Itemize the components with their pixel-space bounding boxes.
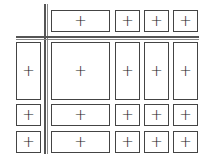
grid-cell-r3-c4[interactable]: + <box>173 131 198 153</box>
vertical-header-rule-2 <box>47 4 48 154</box>
plus-icon: + <box>121 108 134 123</box>
plus-icon: + <box>150 64 163 79</box>
grid-cell-r2-c1[interactable]: + <box>51 104 110 126</box>
grid-cell-r0-c3[interactable]: + <box>144 10 169 32</box>
grid-cell-r1-c2[interactable]: + <box>115 42 140 100</box>
grid-cell-r1-c3[interactable]: + <box>144 42 169 100</box>
grid-cell-r2-c4[interactable]: + <box>173 104 198 126</box>
grid-cell-r3-c3[interactable]: + <box>144 131 169 153</box>
grid-cell-r0-c1[interactable]: + <box>51 10 110 32</box>
plus-icon: + <box>22 64 35 79</box>
plus-icon: + <box>121 135 134 150</box>
grid-cell-r1-c1[interactable]: + <box>51 42 110 100</box>
vertical-header-rule <box>44 4 46 154</box>
grid-cell-r0-c4[interactable]: + <box>173 10 198 32</box>
plus-icon: + <box>179 64 192 79</box>
plus-icon: + <box>22 108 35 123</box>
plus-icon: + <box>121 64 134 79</box>
plus-icon: + <box>121 14 134 29</box>
plus-icon: + <box>150 14 163 29</box>
horizontal-header-rule <box>16 36 199 38</box>
plus-icon: + <box>74 135 87 150</box>
grid-cell-r1-c0[interactable]: + <box>16 42 41 100</box>
grid-cell-r3-c1[interactable]: + <box>51 131 110 153</box>
horizontal-header-rule-2 <box>16 39 199 40</box>
plus-icon: + <box>150 135 163 150</box>
grid-cell-r2-c0[interactable]: + <box>16 104 41 126</box>
grid-cell-r2-c2[interactable]: + <box>115 104 140 126</box>
grid-cell-r3-c0[interactable]: + <box>16 131 41 153</box>
plus-icon: + <box>74 64 87 79</box>
plus-icon: + <box>179 14 192 29</box>
plus-icon: + <box>179 108 192 123</box>
plus-icon: + <box>74 108 87 123</box>
grid-cell-r3-c2[interactable]: + <box>115 131 140 153</box>
plus-icon: + <box>150 108 163 123</box>
plus-icon: + <box>22 135 35 150</box>
plus-icon: + <box>179 135 192 150</box>
grid-cell-r1-c4[interactable]: + <box>173 42 198 100</box>
grid-cell-r2-c3[interactable]: + <box>144 104 169 126</box>
grid-cell-r0-c2[interactable]: + <box>115 10 140 32</box>
plus-icon: + <box>74 14 87 29</box>
